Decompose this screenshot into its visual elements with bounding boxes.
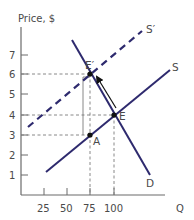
x-ticks <box>44 188 114 195</box>
y-tick-4: 4 <box>9 110 15 121</box>
supply-demand-chart: Price, $ 7 6 5 4 3 2 1 <box>0 0 194 220</box>
x-tick-labels: 25 50 75 100 Q <box>37 203 184 214</box>
point-a <box>87 132 92 137</box>
x-tick-50: 50 <box>60 203 73 214</box>
y-tick-7: 7 <box>9 50 15 61</box>
y-tick-2: 2 <box>9 150 15 161</box>
supply-curve <box>46 70 170 172</box>
shift-arrow <box>97 77 116 108</box>
x-tick-100: 100 <box>104 203 123 214</box>
label-e-prime: E′ <box>85 59 95 71</box>
axes <box>21 27 165 195</box>
label-a: A <box>93 135 101 147</box>
y-axis-title: Price, $ <box>18 13 55 24</box>
demand-curve <box>72 40 150 175</box>
equilibrium-points <box>87 71 116 137</box>
point-e-prime <box>87 71 92 76</box>
y-tick-5: 5 <box>9 89 15 100</box>
y-tick-labels: 7 6 5 4 3 2 1 <box>9 50 15 181</box>
label-s-prime: S′ <box>146 23 156 35</box>
y-tick-3: 3 <box>9 130 15 141</box>
y-tick-6: 6 <box>9 69 15 80</box>
x-axis-title: Q <box>176 203 184 214</box>
label-e: E <box>119 110 126 122</box>
label-s: S <box>172 61 179 73</box>
x-tick-75: 75 <box>83 203 96 214</box>
point-e <box>111 112 116 117</box>
y-tick-1: 1 <box>9 170 15 181</box>
x-tick-25: 25 <box>37 203 50 214</box>
label-d: D <box>146 177 154 189</box>
tax-wedge-bracket <box>83 77 90 135</box>
